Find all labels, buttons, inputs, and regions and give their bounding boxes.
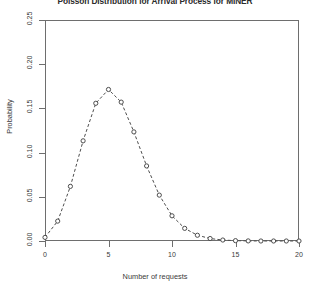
x-tick-label: 20 <box>288 251 310 258</box>
y-tick-mark <box>39 20 45 21</box>
x-tick-mark <box>109 241 110 247</box>
y-tick-label: 0.00 <box>26 233 33 247</box>
y-tick-label: 0.10 <box>26 144 33 158</box>
y-axis-label: Probability <box>5 77 14 157</box>
y-tick-label: 0.25 <box>26 12 33 26</box>
x-tick-mark <box>45 241 46 247</box>
y-tick-label: 0.15 <box>26 100 33 114</box>
x-tick-mark <box>299 241 300 247</box>
y-tick-mark <box>39 108 45 109</box>
y-tick-mark <box>39 197 45 198</box>
x-tick-label: 0 <box>34 251 56 258</box>
plot-area <box>45 20 299 241</box>
x-tick-label: 15 <box>225 251 247 258</box>
y-tick-label: 0.05 <box>26 188 33 202</box>
y-tick-label: 0.20 <box>26 56 33 70</box>
poisson-distribution-chart: Poisson Distribution for Arrival Process… <box>0 0 310 295</box>
x-tick-mark <box>172 241 173 247</box>
x-axis-label: Number of requests <box>0 272 310 281</box>
y-tick-mark <box>39 64 45 65</box>
x-tick-mark <box>236 241 237 247</box>
x-tick-label: 5 <box>98 251 120 258</box>
y-tick-mark <box>39 153 45 154</box>
chart-title: Poisson Distribution for Arrival Process… <box>0 0 310 6</box>
x-tick-label: 10 <box>161 251 183 258</box>
